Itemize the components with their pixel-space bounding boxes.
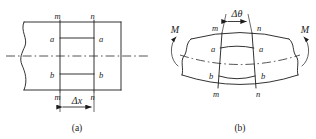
label-m-top-a: m bbox=[54, 11, 60, 21]
beam-bottom-edge-b bbox=[182, 75, 298, 85]
moment-arc-right bbox=[302, 37, 309, 66]
moment-arc-left bbox=[171, 37, 178, 66]
label-delta-x: Δx bbox=[71, 95, 83, 106]
beam-bending-figure: m n m n a a b b Δx (a) bbox=[0, 0, 316, 139]
label-b-left-a: b bbox=[50, 70, 54, 80]
label-b-left-b: b bbox=[209, 71, 213, 81]
label-m-top-b: m bbox=[212, 23, 218, 33]
label-m-bottom-b: m bbox=[213, 89, 219, 99]
label-a-left-a: a bbox=[50, 34, 54, 44]
label-a-right-b: a bbox=[259, 44, 263, 54]
label-a-left-b: a bbox=[211, 44, 215, 54]
caption-panel-a: (a) bbox=[72, 123, 83, 134]
fiber-line-bb-b bbox=[219, 76, 255, 79]
label-delta-theta: Δθ bbox=[231, 8, 243, 19]
label-a-right-a: a bbox=[99, 34, 103, 44]
label-M-right: M bbox=[300, 24, 310, 35]
label-b-right-a: b bbox=[99, 70, 103, 80]
section-line-mm-b bbox=[218, 33, 222, 88]
fiber-line-aa-b bbox=[220, 46, 254, 48]
label-n-bottom-a: n bbox=[90, 92, 94, 102]
label-m-bottom-a: m bbox=[54, 92, 60, 102]
caption-panel-b: (b) bbox=[234, 123, 245, 134]
angle-extension-left-b bbox=[222, 14, 226, 33]
panel-b-group: Δθ M M m n m n a a b b (b) bbox=[170, 8, 310, 134]
angle-extension-right-b bbox=[248, 14, 252, 33]
section-line-nn-b bbox=[252, 33, 256, 88]
neutral-axis-centerline-b bbox=[180, 55, 300, 65]
label-n-top-b: n bbox=[257, 23, 261, 33]
label-b-right-b: b bbox=[261, 71, 265, 81]
label-n-top-a: n bbox=[90, 11, 94, 21]
beam-break-line-right-b bbox=[289, 39, 298, 75]
figure-canvas: m n m n a a b b Δx (a) bbox=[0, 0, 316, 139]
beam-top-edge-b bbox=[191, 33, 289, 40]
label-n-bottom-b: n bbox=[256, 89, 260, 99]
panel-a-group: m n m n a a b b Δx (a) bbox=[6, 11, 150, 135]
label-M-left: M bbox=[170, 24, 180, 35]
